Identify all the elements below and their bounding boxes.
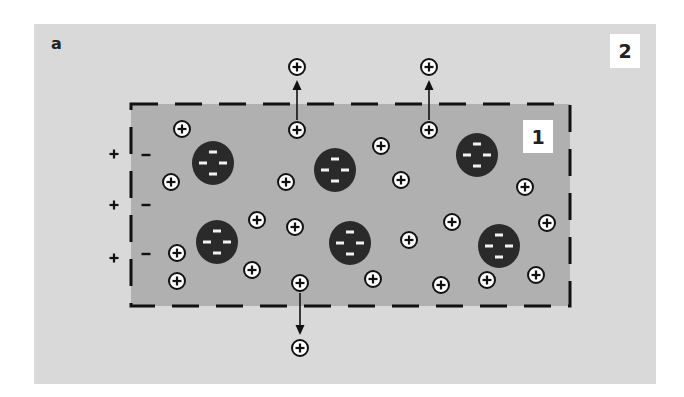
escaped-positive-ion [289,59,305,75]
minus-icon [495,234,503,237]
negative-particle [329,221,371,265]
minus-icon [341,169,349,172]
positive-ion [244,262,260,278]
region-label-1: 1 [523,120,553,153]
minus-icon [219,162,227,165]
minus-icon [331,158,339,161]
minus-icon [346,253,354,256]
minus-icon [209,151,217,154]
inner-region-1 [131,104,570,306]
minus-icon [483,154,491,157]
minus-icon [213,230,221,233]
positive-ion [174,121,190,137]
minus-icon [485,245,493,248]
positive-ion [393,172,409,188]
positive-ion [479,272,495,288]
positive-ion [289,122,305,138]
minus-icon [505,245,513,248]
minus-icon [346,231,354,234]
positive-ion [287,219,303,235]
double-layer-diagram [0,0,684,397]
negative-particle [314,148,356,192]
minus-icon [356,242,364,245]
panel-label: a [51,34,62,53]
minus-icon [199,162,207,165]
minus-icon [203,241,211,244]
negative-particle [456,133,498,177]
positive-ion [373,138,389,154]
minus-icon [336,242,344,245]
positive-ion [365,271,381,287]
minus-icon [331,180,339,183]
positive-ion [278,174,294,190]
positive-ion [528,267,544,283]
positive-ion [401,232,417,248]
positive-ion [444,214,460,230]
minus-icon [223,241,231,244]
minus-icon [209,173,217,176]
minus-icon [473,143,481,146]
negative-particle [196,220,238,264]
negative-particle [192,141,234,185]
positive-ion [421,122,437,138]
positive-ion [249,212,265,228]
positive-ion [517,179,533,195]
positive-ion [169,245,185,261]
positive-ion [163,174,179,190]
escaped-positive-ion [292,340,308,356]
minus-icon [321,169,329,172]
minus-icon [473,165,481,168]
positive-ion [433,277,449,293]
escaped-positive-ion [421,59,437,75]
positive-ion [292,275,308,291]
positive-ion [539,215,555,231]
minus-icon [213,252,221,255]
minus-icon [495,256,503,259]
minus-icon [463,154,471,157]
region-label-2: 2 [610,34,640,68]
positive-ion [169,273,185,289]
negative-particle [478,224,520,268]
